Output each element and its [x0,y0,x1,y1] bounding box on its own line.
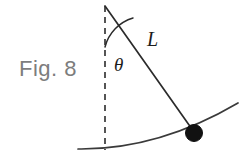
length-label: L [147,29,158,49]
swing-path-arc [78,103,238,149]
figure-caption: Fig. 8 [19,58,77,80]
angle-label: θ [114,55,123,74]
figure-container: Fig. 8 L θ [0,0,241,162]
pendulum-bob [186,125,203,142]
angle-arc [105,18,133,47]
pendulum-diagram-svg [0,0,241,162]
